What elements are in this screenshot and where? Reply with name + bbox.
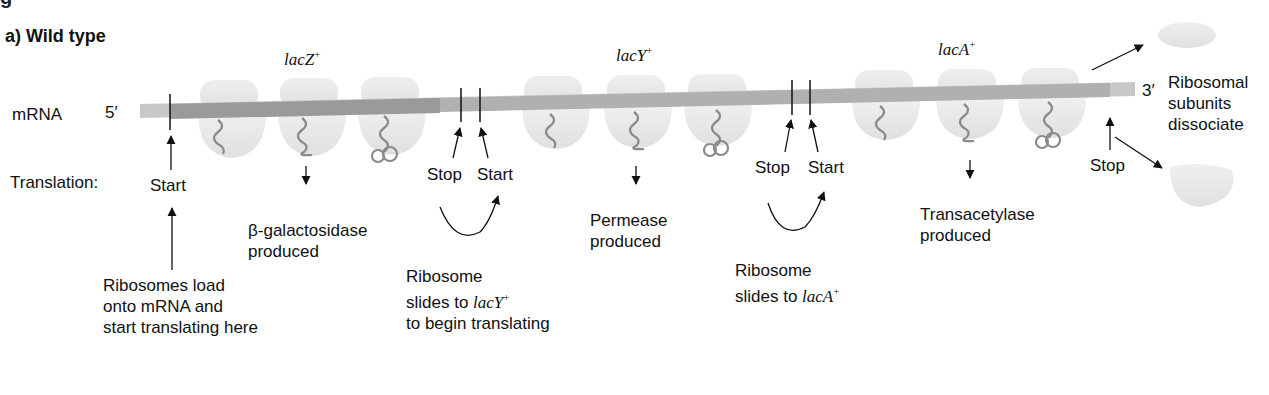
start-label-lacA: Start: [808, 157, 844, 178]
note-subunits-dissociate: Ribosomal subunits dissociate: [1168, 72, 1248, 135]
stop-label-lacY: Stop: [755, 157, 790, 178]
gene-label-lacZ: lacZ+: [284, 48, 320, 70]
panel-label: a) Wild type: [5, 26, 106, 47]
five-prime-label: 5′: [105, 102, 118, 123]
start-label-lacY: Start: [477, 164, 513, 185]
gene-label-lacA: lacA+: [938, 38, 975, 60]
stop-label-lacA: Stop: [1090, 155, 1125, 176]
product-permease: Permeaseproduced: [590, 210, 667, 252]
stop-label-lacZ: Stop: [427, 164, 462, 185]
note-slides-to-lacY: Ribosome slides to lacY+ to begin transl…: [406, 266, 550, 334]
product-beta-galactosidase: β-galactosidaseproduced: [248, 220, 367, 262]
cropped-header-fragment: g: [0, 0, 12, 9]
note-slides-to-lacA: Ribosome slides to lacA+: [735, 260, 839, 307]
note-ribosomes-load: Ribosomes load onto mRNA and start trans…: [103, 275, 258, 338]
start-label-lacZ: Start: [150, 175, 186, 196]
product-transacetylase: Transacetylaseproduced: [920, 204, 1035, 246]
mrna-row-label: mRNA: [12, 104, 62, 125]
translation-row-label: Translation:: [10, 172, 98, 193]
gene-label-lacY: lacY+: [616, 44, 652, 66]
three-prime-label: 3′: [1142, 80, 1155, 101]
